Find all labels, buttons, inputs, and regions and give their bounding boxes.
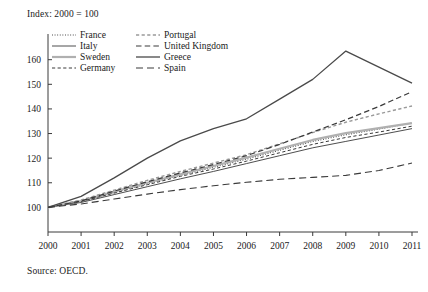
legend-label-italy: Italy <box>80 41 98 51</box>
x-axis-tick-label: 2002 <box>105 241 124 251</box>
source-note: Source: OECD. <box>27 266 88 276</box>
x-axis-tick-label: 2011 <box>403 241 422 251</box>
y-axis-tick-label: 150 <box>27 80 42 90</box>
x-axis-tick-label: 2005 <box>204 241 223 251</box>
y-axis-tick-label: 140 <box>27 104 42 114</box>
y-axis-tick-label: 110 <box>27 178 41 188</box>
x-axis-tick-label: 2000 <box>39 241 58 251</box>
x-axis-tick-label: 2003 <box>138 241 157 251</box>
legend-label-united-kingdom: United Kingdom <box>164 41 229 51</box>
y-axis-tick-label: 100 <box>27 203 42 213</box>
x-axis-tick-label: 2007 <box>270 241 289 251</box>
series-line-united-kingdom <box>48 92 412 208</box>
x-axis-tick-label: 2001 <box>72 241 91 251</box>
x-axis-tick-label: 2004 <box>171 241 190 251</box>
y-axis-tick-label: 120 <box>27 154 42 164</box>
chart-container: Index: 2000 = 100 1001101201301401501602… <box>0 0 428 292</box>
legend-label-portugal: Portugal <box>164 30 197 40</box>
x-axis-tick-label: 2006 <box>237 241 256 251</box>
legend-label-spain: Spain <box>164 63 186 73</box>
line-chart-plot: 1001101201301401501602000200120022003200… <box>0 0 428 292</box>
chart-series-layer <box>48 51 412 207</box>
y-axis-tick-label: 160 <box>27 55 42 65</box>
legend-label-sweden: Sweden <box>80 52 110 62</box>
series-line-portugal <box>48 106 412 207</box>
y-axis-tick-label: 130 <box>27 129 42 139</box>
series-line-spain <box>48 163 412 207</box>
x-axis-tick-label: 2010 <box>369 241 388 251</box>
legend-label-greece: Greece <box>164 52 191 62</box>
x-axis-tick-label: 2008 <box>303 241 322 251</box>
chart-legend: FranceItalySwedenGermanyPortugalUnited K… <box>52 30 229 73</box>
legend-label-france: France <box>80 30 106 40</box>
x-axis-tick-label: 2009 <box>336 241 355 251</box>
legend-label-germany: Germany <box>80 63 116 73</box>
series-line-greece <box>48 51 412 207</box>
